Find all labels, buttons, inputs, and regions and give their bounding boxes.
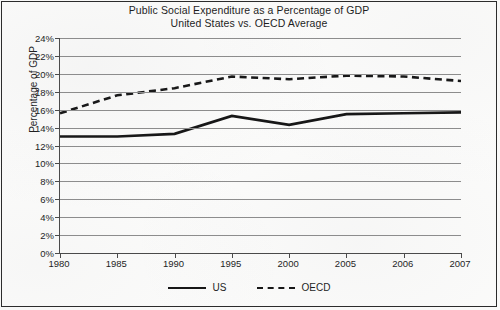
gridline bbox=[60, 56, 461, 57]
y-tick-label: 12% bbox=[35, 140, 54, 151]
gridline bbox=[60, 181, 461, 182]
y-tick-label: 0% bbox=[40, 248, 54, 259]
gridline bbox=[60, 235, 461, 236]
legend-item-oecd: OECD bbox=[257, 282, 331, 293]
x-tick-label: 2006 bbox=[392, 258, 413, 269]
legend-item-us: US bbox=[168, 282, 227, 293]
legend-swatch-dashed-icon bbox=[257, 287, 295, 289]
gridline bbox=[60, 110, 461, 111]
gridline bbox=[60, 146, 461, 147]
y-tick-mark bbox=[55, 38, 60, 39]
y-tick-mark bbox=[55, 217, 60, 218]
x-axis-tick-labels: 19801985199019952000200520062007 bbox=[59, 258, 460, 274]
y-tick-label: 8% bbox=[40, 176, 54, 187]
y-axis-tick-labels: 0%2%4%6%8%10%12%14%16%18%20%22%24% bbox=[22, 38, 54, 253]
y-tick-label: 16% bbox=[35, 104, 54, 115]
legend-label-us: US bbox=[213, 282, 227, 293]
y-tick-mark bbox=[55, 146, 60, 147]
x-tick-label: 1990 bbox=[163, 258, 184, 269]
y-tick-label: 20% bbox=[35, 68, 54, 79]
legend-swatch-solid-icon bbox=[168, 287, 206, 289]
y-tick-mark bbox=[55, 92, 60, 93]
x-tick-label: 1985 bbox=[106, 258, 127, 269]
y-tick-label: 22% bbox=[35, 50, 54, 61]
y-tick-mark bbox=[55, 163, 60, 164]
gridline bbox=[60, 128, 461, 129]
gridline bbox=[60, 92, 461, 93]
chart-page: Public Social Expenditure as a Percentag… bbox=[0, 0, 500, 310]
x-tick-label: 1995 bbox=[220, 258, 241, 269]
y-tick-label: 10% bbox=[35, 158, 54, 169]
gridline bbox=[60, 199, 461, 200]
gridline bbox=[60, 163, 461, 164]
series-line-oecd bbox=[60, 76, 461, 114]
x-tick-label: 2005 bbox=[335, 258, 356, 269]
y-tick-mark bbox=[55, 56, 60, 57]
gridline bbox=[60, 38, 461, 39]
x-tick-label: 2000 bbox=[278, 258, 299, 269]
y-tick-mark bbox=[55, 181, 60, 182]
y-tick-label: 18% bbox=[35, 86, 54, 97]
gridline bbox=[60, 74, 461, 75]
x-tick-label: 2007 bbox=[449, 258, 470, 269]
series-line-us bbox=[60, 112, 461, 136]
gridline bbox=[60, 217, 461, 218]
legend-label-oecd: OECD bbox=[302, 282, 331, 293]
y-tick-label: 14% bbox=[35, 122, 54, 133]
y-tick-mark bbox=[55, 199, 60, 200]
y-tick-mark bbox=[55, 128, 60, 129]
x-tick-label: 1980 bbox=[48, 258, 69, 269]
y-tick-label: 6% bbox=[40, 194, 54, 205]
y-tick-label: 24% bbox=[35, 33, 54, 44]
y-tick-label: 2% bbox=[40, 230, 54, 241]
y-tick-mark bbox=[55, 74, 60, 75]
y-tick-label: 4% bbox=[40, 212, 54, 223]
y-tick-mark bbox=[55, 110, 60, 111]
y-tick-mark bbox=[55, 235, 60, 236]
plot-area bbox=[59, 38, 461, 254]
chart-legend: US OECD bbox=[0, 282, 498, 293]
plot-wrapper: Percentage of GDP 0%2%4%6%8%10%12%14%16%… bbox=[0, 0, 500, 310]
